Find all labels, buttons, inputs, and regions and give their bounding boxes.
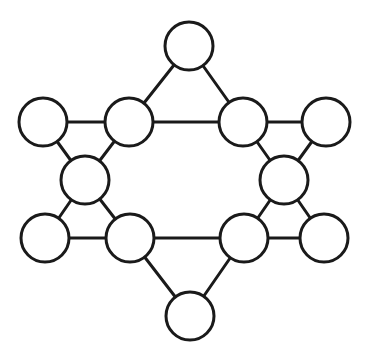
node-upper-left-inner	[105, 98, 153, 146]
node-lower-right-inner	[220, 214, 268, 262]
node-lower-left-inner	[106, 214, 154, 262]
node-top	[165, 22, 213, 70]
node-bottom	[166, 292, 214, 340]
node-upper-right-outer	[302, 98, 350, 146]
node-lower-right-outer	[300, 214, 348, 262]
nodes-group	[19, 22, 350, 340]
star-graph-diagram	[0, 0, 368, 354]
node-upper-left-outer	[19, 98, 67, 146]
node-middle-left	[61, 156, 109, 204]
node-upper-right-inner	[219, 98, 267, 146]
node-lower-left-outer	[21, 214, 69, 262]
node-middle-right	[260, 156, 308, 204]
